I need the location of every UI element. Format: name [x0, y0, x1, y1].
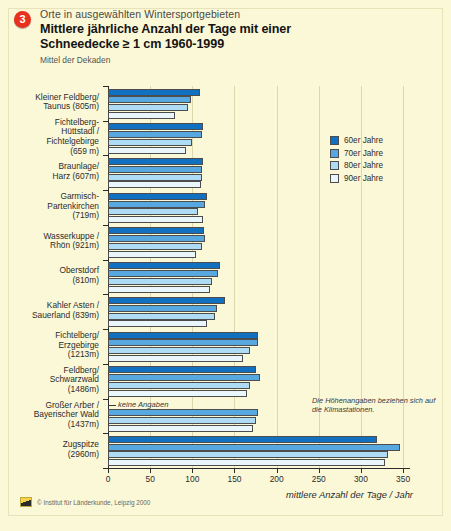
bar-1-0: [108, 123, 203, 130]
x-tick-label-50: 50: [145, 474, 154, 484]
bar-6-2: [108, 313, 215, 320]
category-label-line: Taunus (805m): [3, 102, 99, 112]
x-tick-350: [403, 469, 404, 473]
category-label-6: Kahler Asten /Sauerland (839m): [3, 301, 99, 320]
category-label-8: Feldberg/Schwarzwald(1486m): [3, 366, 99, 395]
legend-item-1[interactable]: 70er Jahre: [330, 149, 383, 158]
y-tick-0: [103, 86, 108, 87]
bar-7-3: [108, 355, 243, 362]
category-label-5: Oberstdorf(810m): [3, 266, 99, 285]
bar-0-2: [108, 104, 188, 111]
gridline-200: [277, 86, 278, 468]
category-label-line: Harz (607m): [3, 172, 99, 182]
bar-0-1: [108, 96, 191, 103]
y-tick-4: [103, 225, 108, 226]
bar-3-1: [108, 201, 205, 208]
bar-1-3: [108, 147, 186, 154]
x-tick-150: [234, 469, 235, 473]
ifl-logo-icon: [20, 497, 32, 507]
y-tick-3: [103, 190, 108, 191]
category-label-line: (719m): [3, 211, 99, 221]
title-block: Orte in ausgewählten Wintersportgebieten…: [40, 8, 414, 65]
category-label-2: Braunlage/Harz (607m): [3, 162, 99, 181]
y-tick-5: [103, 260, 108, 261]
legend-swatch-icon: [330, 161, 339, 170]
bar-2-3: [108, 181, 201, 188]
category-label-line: (2960m): [3, 450, 99, 460]
copyright-credit: © Institut für Länderkunde, Leipzig 2000: [37, 499, 150, 506]
category-label-line: Rhön (921m): [3, 241, 99, 251]
x-tick-50: [150, 469, 151, 473]
bar-3-2: [108, 208, 198, 215]
category-label-line: Sauerland (839m): [3, 311, 99, 321]
x-tick-label-250: 250: [312, 474, 326, 484]
category-label-line: (1437m): [3, 420, 99, 430]
legend-item-3[interactable]: 90er Jahre: [330, 174, 383, 183]
bar-4-1: [108, 235, 205, 242]
bar-5-0: [108, 262, 220, 269]
category-label-line: (1486m): [3, 385, 99, 395]
bar-5-1: [108, 270, 218, 277]
y-tick-2: [103, 155, 108, 156]
category-label-10: Zugspitze(2960m): [3, 440, 99, 459]
bar-7-2: [108, 347, 250, 354]
legend-item-2[interactable]: 80er Jahre: [330, 161, 383, 170]
bar-9-1: [108, 409, 258, 416]
bar-10-0: [108, 436, 377, 443]
bar-7-1: [108, 339, 258, 346]
x-tick-200: [277, 469, 278, 473]
y-tick-7: [103, 329, 108, 330]
annotation-hoehenangaben: Die Höhenangaben beziehen sich auf die K…: [312, 396, 436, 414]
category-label-9: Großer Arber /Bayerischer Wald(1437m): [3, 401, 99, 430]
category-label-1: Fichtelberg-Hüttstadl /Fichtelgebirge(65…: [3, 118, 99, 156]
bar-9-3: [108, 425, 253, 432]
bar-2-0: [108, 158, 203, 165]
bar-2-2: [108, 174, 202, 181]
y-tick-8: [103, 364, 108, 365]
bar-4-3: [108, 251, 196, 258]
x-axis-line: [108, 468, 410, 469]
x-tick-label-150: 150: [227, 474, 241, 484]
chart-title: Mittlere jährliche Anzahl der Tage mit e…: [40, 22, 414, 52]
x-tick-100: [192, 469, 193, 473]
legend-label: 70er Jahre: [344, 149, 383, 158]
bar-3-0: [108, 193, 207, 200]
legend-label: 90er Jahre: [344, 174, 383, 183]
chart-title-line2: Schneedecke ≥ 1 cm 1960-1999: [40, 37, 414, 52]
bar-4-0: [108, 227, 204, 234]
bar-6-3: [108, 320, 207, 327]
x-tick-0: [108, 469, 109, 473]
category-label-line: (1213m): [3, 350, 99, 360]
bar-6-1: [108, 305, 217, 312]
bar-0-0: [108, 89, 200, 96]
x-axis-title: mittlere Anzahl der Tage / Jahr: [286, 489, 413, 500]
bar-8-0: [108, 366, 256, 373]
bar-8-3: [108, 390, 247, 397]
category-label-4: Wasserkuppe /Rhön (921m): [3, 232, 99, 251]
bar-10-1: [108, 444, 400, 451]
legend-item-0[interactable]: 60er Jahre: [330, 136, 383, 145]
legend-label: 60er Jahre: [344, 136, 383, 145]
bar-5-3: [108, 286, 210, 293]
legend-label: 80er Jahre: [344, 161, 383, 170]
bar-6-0: [108, 297, 225, 304]
x-tick-300: [361, 469, 362, 473]
bar-5-2: [108, 278, 212, 285]
chart-legend: 60er Jahre70er Jahre80er Jahre90er Jahre: [330, 136, 383, 186]
chart-subtitle: Mittel der Dekaden: [40, 55, 414, 65]
category-label-line: (810m): [3, 276, 99, 286]
bar-8-1: [108, 374, 260, 381]
x-tick-250: [319, 469, 320, 473]
x-tick-label-200: 200: [270, 474, 284, 484]
x-tick-label-100: 100: [185, 474, 199, 484]
legend-swatch-icon: [330, 136, 339, 145]
bar-3-3: [108, 216, 203, 223]
bar-8-2: [108, 382, 250, 389]
chart-page: 3 Orte in ausgewählten Wintersportgebiet…: [0, 0, 451, 531]
y-tick-1: [103, 121, 108, 122]
bar-1-2: [108, 139, 192, 146]
bar-9-2: [108, 417, 256, 424]
chart-header: 3 Orte in ausgewählten Wintersportgebiet…: [14, 8, 414, 65]
annotation-keine-angaben: keine Angaben: [118, 400, 168, 409]
bar-4-2: [108, 243, 202, 250]
